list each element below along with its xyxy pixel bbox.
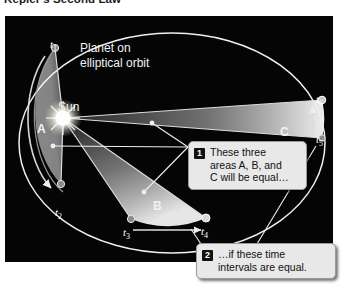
planet-marker-t4 (202, 214, 210, 222)
diagram-panel: Planet on elliptical orbit Sun A B C t1 … (5, 16, 333, 262)
leader-dot-a (51, 144, 56, 149)
callout-box-1: 1 These three areas A, B, and C will be … (188, 141, 307, 190)
planet-marker-t2 (57, 180, 64, 187)
callout-box-2: 2 …if these time intervals are equal. (196, 243, 336, 279)
time-label-t3: t3 (123, 226, 130, 241)
callout-2-text: …if these time intervals are equal. (218, 248, 307, 273)
callout-2-number: 2 (202, 250, 213, 261)
sun-label: Sun (58, 100, 79, 114)
chapter-heading: Kepler's Second Law (4, 0, 121, 5)
time-label-t6: t6 (316, 93, 323, 108)
time-label-t5: t5 (316, 133, 323, 148)
time-label-t4: t4 (201, 225, 208, 240)
area-b-label: B (153, 199, 162, 213)
callout-1-text: These three areas A, B, and C will be eq… (210, 146, 289, 184)
leader-dot-c (150, 121, 155, 126)
leader-dot-b (142, 190, 147, 195)
area-b-wedge (63, 118, 206, 226)
planet-orbit-label: Planet on elliptical orbit (80, 41, 149, 71)
time-label-t2: t2 (55, 206, 62, 221)
area-c-label: C (280, 125, 289, 139)
callout-1-number: 1 (194, 148, 205, 159)
area-a-label: A (37, 122, 46, 136)
time-label-t1: t1 (50, 38, 57, 53)
figure-root: Kepler's Second Law (0, 0, 346, 289)
planet-marker-t3 (127, 215, 134, 222)
